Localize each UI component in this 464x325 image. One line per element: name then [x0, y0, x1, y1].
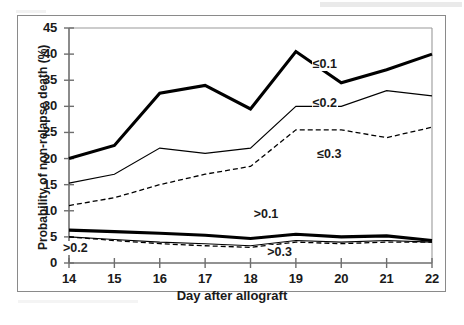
x-tick-label: 21 — [374, 271, 400, 286]
x-tick-label: 15 — [101, 271, 127, 286]
series-label: >0.3 — [266, 245, 293, 259]
series-paths — [69, 52, 432, 248]
x-tick-label: 16 — [147, 271, 173, 286]
series-label: >0.2 — [62, 241, 89, 255]
series-label: ≤0.1 — [312, 57, 338, 71]
x-tick-label: 18 — [238, 271, 264, 286]
series-line-0-3 — [69, 127, 432, 205]
x-axis-title: Day after allograft — [0, 288, 464, 303]
axis-lines — [69, 28, 432, 263]
x-tick-label: 17 — [192, 271, 218, 286]
x-tick-label: 19 — [283, 271, 309, 286]
series-line-0-1 — [69, 230, 432, 240]
series-label: ≤0.3 — [316, 147, 342, 161]
x-tick-label: 22 — [419, 271, 445, 286]
y-tick-label: 0 — [31, 255, 57, 270]
y-tick-label: 45 — [31, 20, 57, 35]
chart-figure: 051015202530354045 141516171819202122 ≤0… — [0, 0, 464, 325]
series-label: >0.1 — [253, 207, 280, 221]
y-axis-title: Probability of non-relapse death (%) — [36, 45, 50, 250]
series-line-0-1 — [69, 52, 432, 159]
series-label: ≤0.2 — [312, 96, 338, 110]
x-tick-label: 20 — [328, 271, 354, 286]
x-tick-label: 14 — [56, 271, 82, 286]
